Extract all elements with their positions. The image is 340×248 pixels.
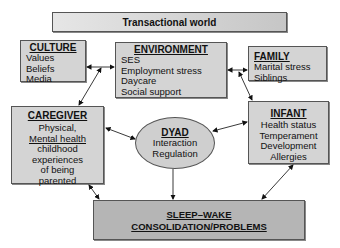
sleep-wake-outcome-box: SLEEP–WAKE CONSOLIDATION/PROBLEMS [93, 200, 305, 240]
culture-box: CULTURE Values Beliefs Media [20, 40, 86, 82]
caregiver-item: childhood [12, 144, 103, 155]
transactional-world-banner: Transactional world [52, 12, 287, 32]
infant-item: Development [249, 141, 328, 152]
environment-item: Daycare [121, 76, 226, 87]
infant-item: Allergies [249, 152, 328, 163]
dyad-item: Interaction [136, 138, 214, 149]
family-item: Marital stress [254, 62, 326, 73]
outcome-line-1: SLEEP–WAKE [94, 209, 304, 221]
caregiver-item: parented [12, 176, 103, 187]
environment-box: ENVIRONMENT SES Employment stress Daycar… [115, 42, 227, 98]
family-box: FAMILY Marital stress Siblings [248, 46, 327, 81]
culture-item: Values [26, 53, 85, 64]
family-item: Siblings [254, 73, 326, 84]
culture-item: Media [26, 74, 85, 85]
infant-item: Health status [249, 120, 328, 131]
dyad-infant-arrow [213, 122, 247, 131]
caregiver-sleep-arrow [89, 185, 99, 199]
infant-sleep-arrow [262, 165, 293, 199]
infant-heading: INFANT [249, 108, 328, 119]
caregiver-item: Physical, [12, 123, 103, 134]
environment-item: Social support [121, 87, 226, 98]
caregiver-item: of being [12, 165, 103, 176]
dyad-ellipse: DYAD Interaction Regulation [135, 117, 215, 169]
caregiver-heading: CAREGIVER [12, 110, 103, 121]
caregiver-box: CAREGIVER Physical, Mental health childh… [11, 106, 104, 184]
environment-item: SES [121, 55, 226, 66]
outcome-line-2: CONSOLIDATION/PROBLEMS [94, 221, 304, 233]
caregiver-dyad-arrow [106, 128, 135, 139]
dyad-item: Regulation [136, 149, 214, 160]
infant-box: INFANT Health status Temperament Develop… [248, 101, 329, 164]
